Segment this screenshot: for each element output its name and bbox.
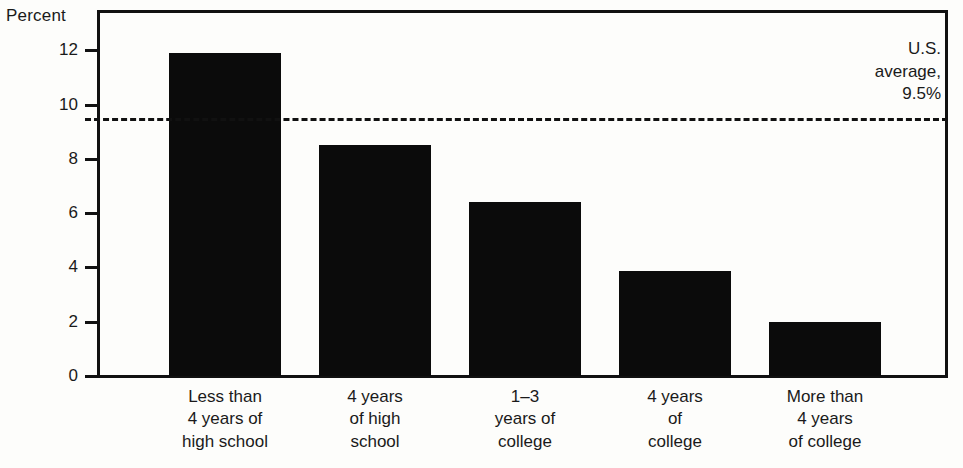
- bar: [319, 145, 431, 376]
- x-axis-category-label: 4 years of college: [600, 386, 750, 453]
- bar: [169, 53, 281, 376]
- bar: [619, 271, 731, 376]
- x-axis-category-label: 1–3 years of college: [450, 386, 600, 453]
- x-axis-category-labels: Less than 4 years of high school4 years …: [97, 386, 948, 468]
- bar: [769, 322, 881, 376]
- x-axis-category-label: Less than 4 years of high school: [150, 386, 300, 453]
- chart-page: Percent 024681012 U.S. average, 9.5% Les…: [0, 0, 963, 468]
- x-axis-category-label: 4 years of high school: [300, 386, 450, 453]
- us-average-annotation: U.S. average, 9.5%: [781, 38, 941, 106]
- bar: [469, 202, 581, 376]
- us-average-dashed-line: [85, 118, 948, 121]
- x-axis-category-label: More than 4 years of college: [750, 386, 900, 453]
